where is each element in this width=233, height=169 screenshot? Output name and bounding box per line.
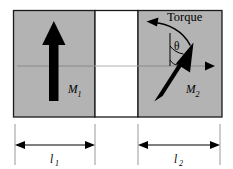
- dimension-l2-label: l: [174, 153, 177, 165]
- spacer-layer: [95, 11, 138, 118]
- theta-label: θ: [174, 40, 180, 52]
- dimension-l2-arrowhead-left-icon: [138, 141, 148, 149]
- dimension-l1-arrowhead-left-icon: [15, 141, 25, 149]
- m2-label-subscript: 2: [196, 90, 200, 99]
- dimension-l1: l 1: [15, 141, 95, 168]
- m1-label-subscript: 1: [78, 90, 82, 99]
- dimension-l2-arrowhead-right-icon: [210, 141, 220, 149]
- dimension-l1-arrowhead-right-icon: [85, 141, 95, 149]
- dimension-l2: l 2: [138, 141, 220, 168]
- dimension-l1-label: l: [50, 153, 53, 165]
- figure-container: Torque θ M 1 M 2 l 1 l 2: [0, 0, 233, 169]
- dimension-l2-subscript: 2: [179, 159, 183, 168]
- magnetization-torque-diagram: Torque θ M 1 M 2 l 1 l 2: [0, 0, 233, 169]
- torque-label: Torque: [167, 10, 203, 24]
- dimension-l1-subscript: 1: [55, 159, 59, 168]
